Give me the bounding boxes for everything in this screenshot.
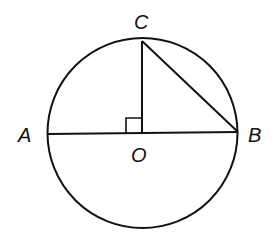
segment-cb — [142, 41, 238, 132]
label-b: B — [248, 124, 261, 146]
geometry-diagram: C A B O — [0, 0, 273, 238]
right-angle-marker — [126, 118, 142, 133]
label-c: C — [134, 11, 149, 33]
label-a: A — [17, 124, 31, 146]
label-o: O — [131, 144, 147, 166]
